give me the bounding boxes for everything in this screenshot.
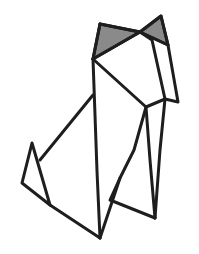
- fold-line: [165, 45, 178, 102]
- fold-line: [110, 178, 155, 218]
- fold-line: [93, 59, 165, 107]
- fold-line: [50, 205, 100, 238]
- fold-line: [40, 95, 93, 160]
- fold-line: [93, 59, 100, 238]
- origami-cat-illustration: [0, 0, 199, 254]
- cat-drawing: [0, 0, 199, 254]
- fold-line: [100, 107, 146, 238]
- fold-line: [146, 107, 155, 218]
- fold-line: [155, 99, 165, 218]
